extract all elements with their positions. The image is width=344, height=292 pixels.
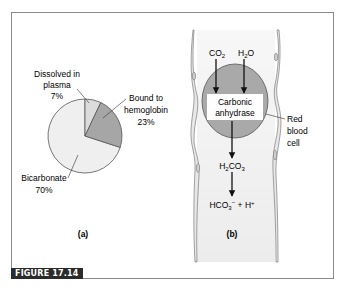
endothelial-nucleus	[273, 150, 276, 160]
endothelial-nucleus	[196, 164, 199, 173]
rbc-label-line1: Red	[287, 114, 303, 124]
label-bound-line1: Bound to	[129, 93, 163, 103]
figure-17-14: Dissolved in plasma 7% Bound to hemoglob…	[0, 0, 344, 292]
panel-a-label: (a)	[78, 229, 89, 239]
label-dissolved-percent: 7%	[51, 91, 64, 101]
enzyme-line2: anhydrase	[215, 108, 255, 118]
label-bicarbonate-line1: Bicarbonate	[21, 173, 67, 183]
panel-b-label: (b)	[227, 229, 238, 239]
label-bound-line2: hemoglobin	[124, 105, 168, 115]
rbc-label-line2: blood	[287, 126, 308, 136]
label-bound-percent: 23%	[137, 117, 154, 127]
endothelial-nucleus	[192, 72, 195, 80]
label-dissolved-line2: plasma	[43, 80, 71, 90]
label-dissolved-line1: Dissolved in	[34, 69, 80, 79]
figure-number-label: FIGURE 17.14	[11, 268, 83, 279]
label-bicarbonate-percent: 70%	[35, 185, 52, 195]
pie-chart	[48, 99, 122, 173]
enzyme-line1: Carbonic	[218, 97, 253, 107]
rbc-label-line3: cell	[287, 138, 300, 148]
endothelial-nucleus	[274, 53, 277, 61]
